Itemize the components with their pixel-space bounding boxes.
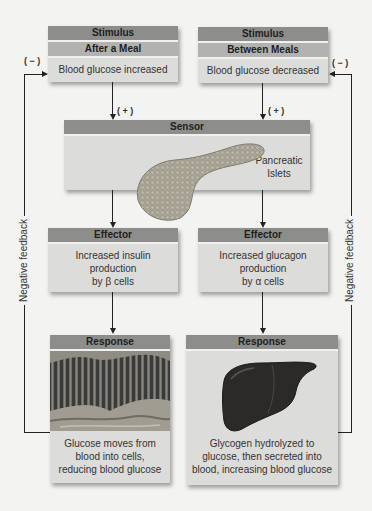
effector-header: Effector [198,228,328,244]
stimulus-subheader: Between Meals [198,43,328,59]
effector-box-insulin: Effector Increased insulin production by… [48,228,178,292]
negative-feedback-label-left: Negative feedback [18,216,29,305]
effector-text: Increased glucagon production by α cells [198,244,328,288]
liver-illustration-icon [186,351,338,433]
stimulus-subheader: After a Meal [48,42,178,58]
negative-sign-left: ( − ) [24,56,40,66]
stimulus-box-after-meal: Stimulus After a Meal Blood glucose incr… [48,26,178,82]
arrow-line-stimulus-left-to-sensor [112,82,113,116]
feedback-arrow-right-icon [329,71,335,77]
feedback-line-left-top [24,74,42,75]
response-text: Glucose moves from blood into cells, red… [50,431,170,476]
arrow-line-stimulus-right-to-sensor [262,83,263,116]
response-header: Response [186,335,338,351]
arrow-line-sensor-to-effector-left [112,190,113,223]
response-box-left: Response Glucose moves from blood into c… [50,335,170,483]
arrow-down-icon [260,328,266,334]
arrow-line-sensor-to-effector-right [262,190,263,223]
intestinal-tissue-illustration-icon [50,351,170,431]
stimulus-text: Blood glucose decreased [198,59,328,83]
arrow-line-effector-to-response-right [262,292,263,329]
sensor-header: Sensor [64,120,310,136]
negative-feedback-label-right: Negative feedback [344,216,355,305]
response-box-right: Response Glycogen hydrolyzed to glucose,… [186,335,338,485]
effector-text: Increased insulin production by β cells [48,244,178,288]
negative-sign-right: ( − ) [332,58,348,68]
stimulus-header: Stimulus [48,26,178,42]
response-text: Glycogen hydrolyzed to glucose, then sec… [186,433,338,476]
stimulus-header: Stimulus [198,27,328,43]
feedback-line-right-top [334,74,352,75]
response-header: Response [50,335,170,351]
effector-box-glucagon: Effector Increased glucagon production b… [198,228,328,292]
pancreas-illustration-icon [130,140,270,222]
stimulus-text: Blood glucose increased [48,58,178,82]
positive-sign-left: ( + ) [117,106,133,116]
positive-sign-right: ( + ) [268,106,284,116]
feedback-line-right-bottom [338,432,352,433]
arrow-down-icon [110,328,116,334]
effector-header: Effector [48,228,178,244]
feedback-line-left-bottom [24,432,52,433]
arrow-line-effector-to-response-left [112,292,113,329]
stimulus-box-between-meals: Stimulus Between Meals Blood glucose dec… [198,27,328,83]
